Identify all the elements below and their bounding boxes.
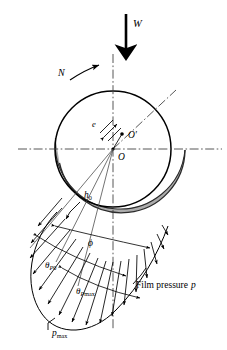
diagram-canvas: W N e O' O h0 — [0, 0, 227, 350]
angle-arc-phi — [55, 226, 150, 248]
bearing-center-label: O — [118, 152, 125, 162]
eccentricity-label-e: e — [92, 119, 96, 129]
angle-arc-theta-pmax — [62, 268, 140, 298]
load-label-W: W — [133, 18, 143, 29]
speed-label-N: N — [57, 67, 66, 78]
theta-p0-label: θP0 — [45, 260, 56, 271]
min-film-thickness-label: h0 — [84, 190, 92, 201]
film-pressure-arrows — [30, 198, 168, 325]
eccentricity-dimension — [100, 120, 122, 149]
min-film-thickness-leader — [66, 202, 80, 219]
journal-center-label: O' — [128, 130, 138, 140]
film-pressure-label: Film pressurep — [136, 280, 196, 290]
journal-bearing-figure: W N e O' O h0 — [0, 0, 227, 350]
rotation-arrow-N — [70, 65, 99, 80]
journal-center-point — [120, 132, 124, 136]
attitude-angle-label: ϕ — [88, 238, 93, 248]
line-of-centers — [113, 90, 176, 149]
